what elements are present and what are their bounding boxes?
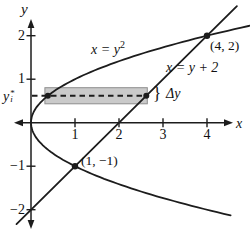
- y-tick-label-−1: −1: [3, 159, 25, 173]
- delta-y-label: Δy: [166, 87, 180, 101]
- curve-label-line: x = y + 2: [166, 61, 218, 75]
- curve-parabola: [31, 24, 250, 215]
- curve-label-parabola-base: x = y: [91, 42, 120, 57]
- y-axis-bottom-arrow: [28, 220, 35, 229]
- y-i-star-scripts: *i: [10, 90, 15, 103]
- x-tick-label-4: 4: [199, 128, 215, 142]
- intersection-dot-1: [72, 163, 78, 169]
- curve-label-parabola: x = y2: [91, 40, 125, 57]
- curve-label-parabola-exponent: 2: [120, 39, 125, 50]
- y-i-star-sub: i: [10, 96, 15, 103]
- x-axis-right-arrow: [224, 119, 233, 126]
- y-tick-label-1: 1: [3, 72, 25, 86]
- y-axis-top-arrow: [28, 19, 35, 28]
- delta-y-brace: }: [153, 84, 161, 102]
- y-axis-label: y: [21, 2, 28, 17]
- y-tick-label-−2: −2: [3, 203, 25, 217]
- x-tick-label-2: 2: [111, 128, 127, 142]
- plot-canvas: [0, 0, 250, 237]
- curve-line: [17, 6, 237, 224]
- strip-left-dot: [45, 93, 51, 99]
- x-tick-label-1: 1: [67, 128, 83, 142]
- x-axis-label: x: [236, 117, 242, 131]
- point-label-4-2: (4, 2): [210, 39, 239, 53]
- strip-right-dot: [143, 93, 149, 99]
- y-i-star-label: y*i: [3, 90, 15, 104]
- x-tick-label-3: 3: [155, 128, 171, 142]
- figure-root: y x y*i x = y2 x = y + 2 (4, 2) (1, −1) …: [0, 0, 250, 237]
- y-i-star-base: y: [3, 90, 9, 104]
- x-axis-left-arrow: [14, 119, 23, 126]
- point-label-1-neg1: (1, −1): [81, 154, 118, 168]
- y-tick-label-2: 2: [3, 29, 25, 43]
